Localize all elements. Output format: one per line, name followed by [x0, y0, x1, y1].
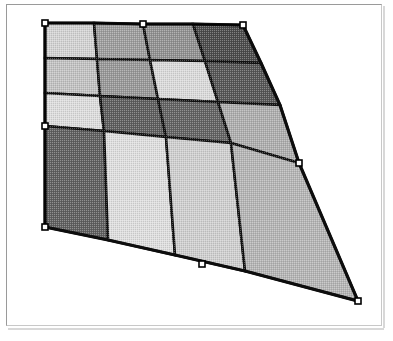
mesh-selection-layer[interactable]	[0, 0, 393, 341]
mesh-cell-texture-r3-c1	[45, 93, 104, 131]
mesh-cell-texture-r1-c1	[45, 23, 97, 59]
handle-bottom-right[interactable]	[355, 298, 361, 304]
mesh-cell-texture-r4-c1	[45, 126, 108, 240]
mesh-cell-texture-r3-c2	[100, 96, 166, 137]
mesh-cell-texture-r2-c2	[97, 59, 158, 99]
handle-bottom-left[interactable]	[42, 224, 48, 230]
mesh-cell-texture-r4-c2	[104, 131, 175, 255]
mesh-cell-texture-r2-c1	[45, 58, 100, 96]
handle-bottom-center[interactable]	[199, 261, 205, 267]
mesh-cell-texture-r1-c2	[94, 23, 150, 60]
handle-top-left[interactable]	[42, 20, 48, 26]
handle-middle-right[interactable]	[296, 160, 302, 166]
handle-middle-left[interactable]	[42, 123, 48, 129]
handle-top-right[interactable]	[240, 22, 246, 28]
handle-top-center[interactable]	[140, 21, 146, 27]
mesh-cell-texture-r4-c4	[231, 143, 358, 301]
mesh-dither-overlay	[45, 23, 358, 301]
